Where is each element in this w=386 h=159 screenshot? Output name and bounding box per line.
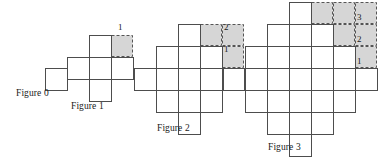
figure-1-caption: Figure 1 bbox=[71, 101, 104, 111]
unit-square bbox=[179, 25, 201, 47]
shaded-cell bbox=[334, 25, 355, 46]
unit-square bbox=[246, 69, 268, 91]
figure-1-shape bbox=[64, 32, 136, 104]
shaded-cell bbox=[112, 36, 133, 57]
unit-square bbox=[179, 69, 201, 91]
unit-square bbox=[268, 47, 290, 69]
unit-square bbox=[290, 69, 312, 91]
unit-square bbox=[179, 91, 201, 113]
figure-1-step-label: 1 bbox=[118, 22, 123, 32]
unit-square bbox=[157, 91, 179, 113]
unit-square bbox=[90, 58, 112, 80]
unit-square bbox=[268, 69, 290, 91]
unit-square bbox=[312, 25, 334, 47]
unit-square bbox=[179, 47, 201, 69]
unit-square bbox=[268, 91, 290, 113]
unit-square bbox=[290, 113, 312, 135]
unit-square bbox=[312, 47, 334, 69]
unit-square bbox=[290, 91, 312, 113]
figure-3-shape bbox=[220, 0, 380, 159]
unit-square bbox=[268, 25, 290, 47]
unit-square bbox=[157, 47, 179, 69]
unit-square bbox=[135, 69, 157, 91]
unit-square bbox=[312, 113, 334, 135]
figure-3-step-label: 3 bbox=[357, 12, 362, 22]
unit-square bbox=[290, 3, 312, 25]
shaded-cell bbox=[312, 3, 333, 24]
figure-2-caption: Figure 2 bbox=[157, 123, 190, 133]
figure-0-caption: Figure 0 bbox=[16, 88, 49, 98]
unit-square bbox=[334, 91, 356, 113]
shaded-cell bbox=[334, 3, 355, 24]
unit-square bbox=[246, 91, 268, 113]
unit-square bbox=[334, 69, 356, 91]
unit-square bbox=[312, 91, 334, 113]
figure-3-caption: Figure 3 bbox=[268, 142, 301, 152]
unit-square bbox=[90, 80, 112, 102]
unit-square bbox=[334, 47, 356, 69]
unit-square bbox=[312, 69, 334, 91]
unit-square bbox=[157, 69, 179, 91]
figure-3-step-label: 1 bbox=[357, 56, 362, 66]
unit-square bbox=[290, 25, 312, 47]
unit-square bbox=[90, 36, 112, 58]
figure-sequence-diagram: Figure 0Figure 11Figure 221Figure 3321 bbox=[0, 0, 386, 159]
unit-square bbox=[68, 58, 90, 80]
unit-square bbox=[246, 47, 268, 69]
figure-3-step-label: 2 bbox=[357, 34, 362, 44]
unit-square bbox=[268, 113, 290, 135]
shaded-cell bbox=[201, 25, 222, 46]
unit-square bbox=[290, 47, 312, 69]
unit-square bbox=[224, 69, 246, 91]
unit-square bbox=[356, 69, 378, 91]
